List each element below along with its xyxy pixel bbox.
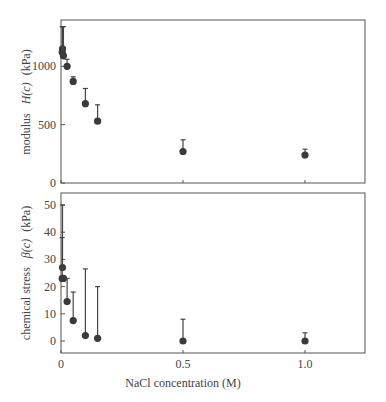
bottom-y-axis-label: chemical stress β(c) (kPa): [19, 206, 33, 340]
y-tick-label: 40: [44, 225, 56, 239]
y-tick-label: 0: [50, 334, 56, 348]
data-point: [82, 100, 89, 107]
data-point: [82, 332, 89, 339]
bottom-panel-frame: [61, 193, 365, 353]
data-point: [94, 118, 101, 125]
data-point: [301, 337, 308, 344]
data-point: [70, 317, 77, 324]
top-data-points: [59, 27, 309, 159]
x-tick-label: 1.0: [298, 357, 313, 371]
top-panel-frame: [61, 20, 365, 183]
data-point: [64, 63, 71, 70]
y-tick-label: 30: [44, 252, 56, 266]
data-point: [70, 78, 77, 85]
data-point: [179, 148, 186, 155]
x-tick-label: 0.5: [176, 357, 191, 371]
y-tick-label: 0: [50, 176, 56, 190]
y-tick-label: 50: [44, 198, 56, 212]
data-point: [179, 337, 186, 344]
top-y-axis-label: modulus H(c) (kPa): [19, 49, 33, 154]
y-tick-label: 1000: [32, 59, 56, 73]
bottom-data-points: [59, 205, 309, 345]
x-tick-label: 0: [58, 357, 64, 371]
data-point: [60, 52, 67, 59]
y-tick-label: 500: [38, 118, 56, 132]
data-point: [64, 298, 71, 305]
data-point: [301, 151, 308, 158]
data-point: [94, 335, 101, 342]
chart: 05001000 modulus H(c) (kPa) 01020304050 …: [0, 0, 386, 402]
x-axis-label: NaCl concentration (M): [125, 376, 240, 390]
top-y-axis-ticks: 05001000: [32, 59, 65, 190]
y-tick-label: 20: [44, 280, 56, 294]
y-tick-label: 10: [44, 307, 56, 321]
